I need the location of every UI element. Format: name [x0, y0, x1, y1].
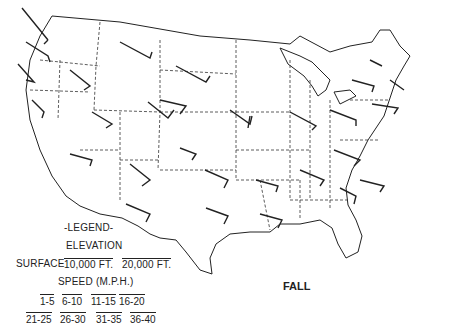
legend-surface: SURFACE — [16, 258, 65, 269]
speed-1-5: 1-5 — [40, 294, 54, 307]
speed-31-35: 31-35 — [96, 312, 122, 325]
state-borders — [30, 22, 390, 230]
legend-10000ft: 10,000 FT. — [64, 258, 113, 270]
legend-elevation-label: ELEVATION — [66, 240, 122, 251]
speed-16-20: 16-20 — [119, 294, 145, 307]
us-outline — [26, 16, 410, 274]
legend-20000ft: 20,000 FT. — [122, 258, 171, 270]
season-label: FALL — [283, 280, 311, 292]
legend-title: -LEGEND- — [64, 222, 113, 233]
speed-6-10: 6-10 — [62, 294, 82, 307]
speed-26-30: 26-30 — [60, 312, 86, 325]
speed-11-15: 11-15 — [91, 294, 116, 307]
great-lakes — [280, 48, 356, 104]
legend-speed-label: SPEED (M.P.H.) — [58, 276, 133, 287]
speed-36-40: 36-40 — [130, 312, 156, 325]
speed-21-25: 21-25 — [26, 312, 52, 325]
